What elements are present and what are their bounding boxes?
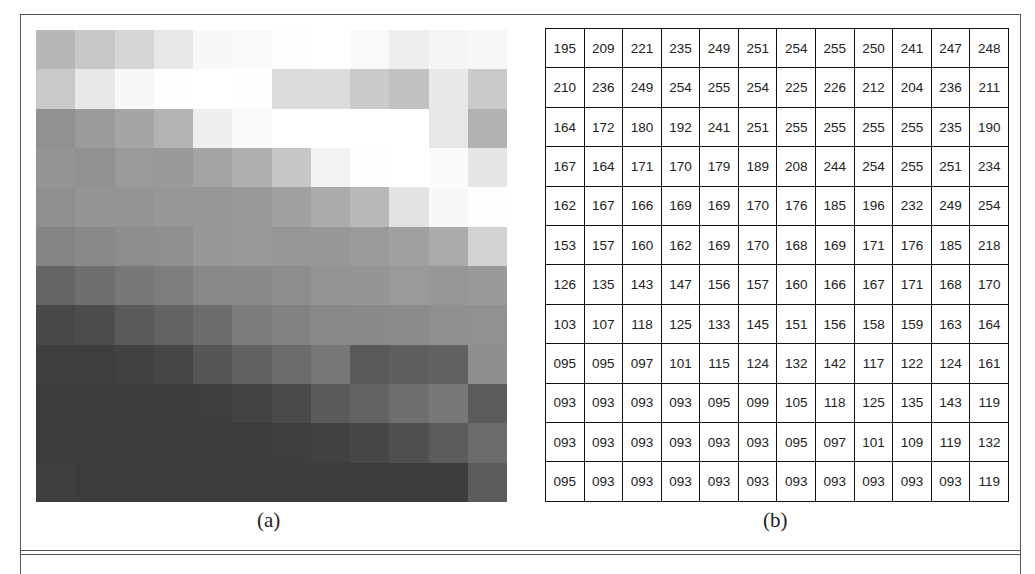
grid-cell: 125	[661, 304, 700, 343]
image-pixel	[272, 227, 311, 266]
grid-cell: 168	[777, 226, 816, 265]
grid-row: 162167166169169170176185196232249254	[546, 186, 1009, 225]
image-pixel	[75, 266, 114, 305]
image-pixel	[154, 187, 193, 226]
image-pixel	[468, 69, 507, 108]
image-pixel	[429, 227, 468, 266]
grid-cell: 249	[700, 29, 739, 68]
image-pixel	[154, 227, 193, 266]
grid-row: 126135143147156157160166167171168170	[546, 265, 1009, 304]
image-pixel	[429, 30, 468, 69]
image-pixel	[154, 148, 193, 187]
image-pixel	[115, 109, 154, 148]
image-pixel	[154, 30, 193, 69]
image-pixel	[232, 384, 271, 423]
image-pixel	[389, 30, 428, 69]
grid-cell: 196	[854, 186, 893, 225]
grid-cell: 166	[816, 265, 855, 304]
image-pixel	[272, 423, 311, 462]
image-pixel	[389, 227, 428, 266]
image-pixel	[232, 109, 271, 148]
grid-cell: 210	[546, 68, 585, 107]
image-pixel	[429, 345, 468, 384]
image-pixel	[311, 423, 350, 462]
image-pixel	[75, 305, 114, 344]
grid-cell: 164	[546, 107, 585, 146]
image-pixel	[389, 463, 428, 502]
grid-cell: 093	[931, 462, 970, 502]
image-pixel	[115, 187, 154, 226]
image-pixel	[193, 266, 232, 305]
image-pixel	[389, 109, 428, 148]
grid-cell: 093	[854, 462, 893, 502]
grid-cell: 157	[584, 226, 623, 265]
grid-cell: 221	[623, 29, 662, 68]
grid-cell: 235	[661, 29, 700, 68]
image-pixel	[115, 266, 154, 305]
image-pixel	[350, 30, 389, 69]
image-pixel	[350, 148, 389, 187]
image-pixel	[389, 148, 428, 187]
double-rule-divider	[20, 550, 1021, 555]
image-pixel	[115, 227, 154, 266]
grid-cell: 171	[893, 265, 932, 304]
image-pixel	[232, 423, 271, 462]
grid-cell: 254	[854, 147, 893, 186]
grid-cell: 167	[584, 186, 623, 225]
grid-cell: 254	[738, 68, 777, 107]
image-pixel	[75, 30, 114, 69]
grid-cell: 169	[700, 226, 739, 265]
grid-cell: 122	[893, 344, 932, 383]
grid-cell: 095	[584, 344, 623, 383]
grid-cell: 255	[893, 147, 932, 186]
grid-cell: 132	[970, 423, 1009, 462]
image-pixel	[75, 345, 114, 384]
grid-cell: 126	[546, 265, 585, 304]
image-pixel	[193, 109, 232, 148]
grid-cell: 234	[970, 147, 1009, 186]
grid-cell: 101	[854, 423, 893, 462]
image-pixel	[389, 423, 428, 462]
grid-cell: 168	[931, 265, 970, 304]
image-pixel	[272, 148, 311, 187]
image-pixel	[272, 384, 311, 423]
image-pixel	[115, 305, 154, 344]
grid-cell: 133	[700, 304, 739, 343]
image-pixel	[429, 305, 468, 344]
image-pixel	[272, 266, 311, 305]
grid-cell: 093	[584, 383, 623, 422]
grid-cell: 135	[893, 383, 932, 422]
grid-cell: 158	[854, 304, 893, 343]
grid-cell: 170	[738, 186, 777, 225]
grid-cell: 211	[970, 68, 1009, 107]
image-pixel	[115, 345, 154, 384]
image-pixel	[193, 148, 232, 187]
grid-cell: 190	[970, 107, 1009, 146]
image-pixel	[468, 227, 507, 266]
image-pixel	[193, 187, 232, 226]
image-pixel	[429, 384, 468, 423]
image-pixel	[311, 305, 350, 344]
grid-cell: 254	[970, 186, 1009, 225]
grid-cell: 255	[816, 107, 855, 146]
image-pixel	[311, 384, 350, 423]
image-pixel	[36, 227, 75, 266]
grid-cell: 226	[816, 68, 855, 107]
image-pixel	[232, 227, 271, 266]
grid-cell: 185	[816, 186, 855, 225]
grid-row: 095095097101115124132142117122124161	[546, 344, 1009, 383]
image-pixel	[272, 463, 311, 502]
grid-cell: 192	[661, 107, 700, 146]
image-pixel	[429, 266, 468, 305]
image-pixel	[350, 69, 389, 108]
image-pixel	[232, 463, 271, 502]
image-pixel	[154, 305, 193, 344]
grid-cell: 117	[854, 344, 893, 383]
grid-row: 153157160162169170168169171176185218	[546, 226, 1009, 265]
image-pixel	[272, 305, 311, 344]
image-pixel	[429, 463, 468, 502]
grid-cell: 218	[970, 226, 1009, 265]
image-pixel	[311, 148, 350, 187]
grid-cell: 251	[738, 29, 777, 68]
grid-cell: 115	[700, 344, 739, 383]
